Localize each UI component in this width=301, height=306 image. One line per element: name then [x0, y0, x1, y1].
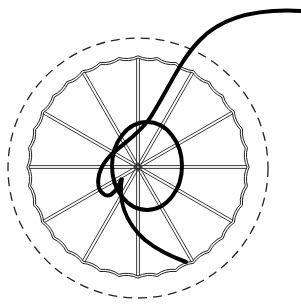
- scalloped-fabric-edge: [27, 56, 249, 278]
- spider-web-stitch-diagram: [0, 0, 301, 306]
- thread: [98, 11, 301, 262]
- spokes: [29, 58, 247, 276]
- diagram-svg: [0, 0, 301, 306]
